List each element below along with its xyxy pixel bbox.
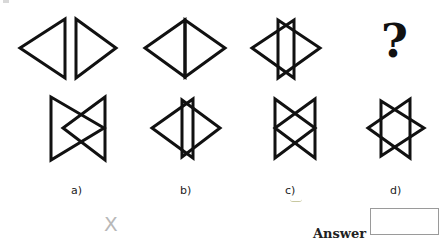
option-b-label[interactable]: b) <box>180 184 191 197</box>
answer-label: Answer <box>313 226 366 241</box>
option-c-shape[interactable] <box>275 99 315 158</box>
option-d-shape[interactable] <box>368 99 424 158</box>
option-a-shape[interactable] <box>51 97 105 160</box>
pair-overlapping-shape <box>252 20 320 78</box>
bottom-row-options <box>51 97 424 160</box>
triangle-outline <box>381 101 424 156</box>
option-a-label[interactable]: a) <box>71 184 82 197</box>
question-mark-icon: ? <box>381 18 408 64</box>
triangle-outline <box>152 99 193 158</box>
option-c-underline-mark <box>290 199 302 202</box>
triangle-outline <box>76 19 116 78</box>
triangle-outline <box>185 20 225 77</box>
pencil-x-mark: X <box>104 212 118 236</box>
top-row-shapes <box>20 19 320 78</box>
triangle-outline <box>275 99 315 158</box>
pair-joined-diamond-shape <box>145 20 225 77</box>
option-d-label[interactable]: d) <box>390 184 401 197</box>
triangle-outline <box>20 19 65 78</box>
corner-mark <box>3 0 9 3</box>
triangle-outline <box>145 20 185 77</box>
answer-input-box[interactable] <box>370 208 439 235</box>
option-c-label[interactable]: c) <box>285 184 295 197</box>
option-b-shape[interactable] <box>152 99 220 158</box>
pair-separated-shape <box>20 19 116 78</box>
triangle-outline <box>275 99 315 158</box>
triangle-outline <box>51 97 104 160</box>
triangle-outline <box>182 100 220 157</box>
